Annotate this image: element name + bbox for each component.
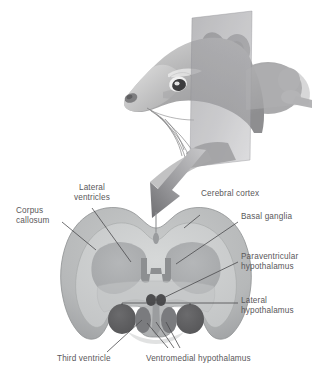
label-lateral-hypothalamus: Lateral hypothalamus xyxy=(241,296,311,317)
lateral-hypothalamus-right xyxy=(176,304,204,334)
label-cerebral-cortex: Cerebral cortex xyxy=(201,189,293,199)
coronal-brain-section xyxy=(61,207,252,344)
label-third-ventricle: Third ventricle xyxy=(57,354,137,364)
label-basal-ganglia: Basal ganglia xyxy=(241,212,311,222)
ventromedial-hypothalamus-left xyxy=(135,307,151,333)
label-corpus-callosum: Corpus callosum xyxy=(16,206,74,227)
label-ventromedial-hypothalamus: Ventromedial hypothalamus xyxy=(146,354,276,364)
label-lateral-ventricles: Lateral ventricles xyxy=(68,183,116,204)
label-paraventricular-hypothalamus: Paraventricular hypothalamus xyxy=(241,252,312,273)
ventromedial-hypothalamus-right xyxy=(161,307,177,333)
